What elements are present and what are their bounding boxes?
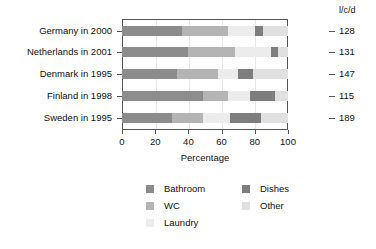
category-labels: Germany in 2000Netherlands in 2001Denmar… — [0, 19, 118, 130]
bar-row — [122, 85, 288, 107]
legend-swatch-icon — [242, 202, 250, 210]
bar-row — [122, 41, 288, 63]
x-tick — [222, 130, 223, 134]
bar-segment-dishes — [255, 26, 263, 36]
bar-segment-wc — [172, 113, 204, 123]
legend-swatch-icon — [146, 219, 154, 227]
right-axis-header: l/c/d — [339, 5, 356, 15]
bar-segment-laundry — [218, 69, 238, 79]
bar-segment-laundry — [203, 113, 230, 123]
right-axis-value: 115 — [339, 90, 354, 101]
bar-segment-dishes — [250, 91, 275, 101]
x-tick — [122, 130, 123, 134]
bar-segment-other — [253, 69, 288, 79]
bar-segment-bathroom — [122, 113, 172, 123]
legend-label: Dishes — [260, 182, 289, 195]
x-tick-label: 40 — [173, 136, 203, 147]
category-label: Denmark in 1995 — [40, 68, 112, 79]
chart-legend: BathroomWCLaundryDishesOther — [146, 182, 346, 240]
right-axis-value: 147 — [339, 68, 355, 79]
bar-segment-bathroom — [122, 69, 177, 79]
x-tick-label: 80 — [240, 136, 270, 147]
bar-segment-laundry — [235, 47, 272, 57]
bar-segment-bathroom — [122, 47, 188, 57]
stacked-bar — [122, 91, 288, 101]
bar-segment-other — [275, 91, 288, 101]
bar-row — [122, 63, 288, 85]
category-label: Finland in 1998 — [47, 90, 112, 101]
legend-label: Laundry — [164, 216, 198, 229]
bar-row — [122, 107, 288, 129]
bar-segment-bathroom — [122, 26, 182, 36]
stacked-bar — [122, 69, 288, 79]
bar-segment-other — [278, 47, 288, 57]
stacked-bar — [122, 47, 288, 57]
bar-segment-bathroom — [122, 91, 203, 101]
right-axis-value: 128 — [339, 25, 355, 36]
right-axis-tick — [329, 52, 335, 53]
legend-label: WC — [164, 199, 180, 212]
category-label: Netherlands in 2001 — [27, 46, 112, 57]
bar-segment-wc — [177, 69, 219, 79]
right-axis-value: 189 — [339, 112, 355, 123]
right-axis-tick — [329, 74, 335, 75]
legend-swatch-icon — [146, 202, 154, 210]
category-label: Germany in 2000 — [39, 25, 112, 36]
bar-segment-wc — [188, 47, 234, 57]
right-axis-tick — [329, 31, 335, 32]
bar-row — [122, 20, 288, 42]
category-label: Sweden in 1995 — [44, 112, 112, 123]
bar-segment-other — [261, 113, 288, 123]
stacked-bar — [122, 26, 288, 36]
x-tick-label: 60 — [207, 136, 237, 147]
x-tick-label: 0 — [107, 136, 137, 147]
right-axis-value: 131 — [339, 46, 355, 57]
x-tick-label: 20 — [140, 136, 170, 147]
right-axis-tick — [329, 96, 335, 97]
right-axis-tick — [329, 118, 335, 119]
x-tick — [255, 130, 256, 134]
bar-segment-dishes — [271, 47, 278, 57]
legend-label: Bathroom — [164, 182, 205, 195]
right-value-column: l/c/d 128131147115189 — [289, 0, 376, 140]
bar-segment-laundry — [228, 26, 255, 36]
bar-rows — [122, 19, 288, 130]
x-tick — [188, 130, 189, 134]
x-axis-title: Percentage — [122, 152, 288, 163]
stacked-bar — [122, 113, 288, 123]
bar-segment-dishes — [230, 113, 262, 123]
bar-segment-dishes — [238, 69, 253, 79]
legend-label: Other — [260, 199, 284, 212]
stacked-bar-chart: Germany in 2000Netherlands in 2001Denmar… — [0, 0, 376, 249]
bar-segment-other — [263, 26, 288, 36]
bar-segment-wc — [203, 91, 228, 101]
legend-swatch-icon — [242, 185, 250, 193]
bar-segment-wc — [182, 26, 228, 36]
legend-swatch-icon — [146, 185, 154, 193]
bar-segment-laundry — [228, 91, 250, 101]
x-tick — [155, 130, 156, 134]
